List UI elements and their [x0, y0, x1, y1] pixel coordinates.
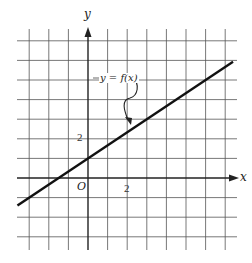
y-axis-arrow-icon — [85, 27, 92, 37]
grid-lines — [17, 29, 237, 250]
label-callout-arrow — [93, 78, 137, 125]
callout-curve — [124, 78, 137, 120]
function-label: y = f(x) — [99, 73, 139, 83]
coordinate-graph — [0, 0, 252, 263]
callout-arrowhead-icon — [125, 117, 132, 125]
y-axis-label: y — [84, 8, 91, 20]
x-tick-label: 2 — [124, 183, 130, 194]
origin-label: O — [77, 181, 86, 192]
y-tick-label: 2 — [77, 132, 83, 143]
x-axis-arrow-icon — [229, 175, 239, 182]
x-axis-label: x — [240, 171, 247, 183]
